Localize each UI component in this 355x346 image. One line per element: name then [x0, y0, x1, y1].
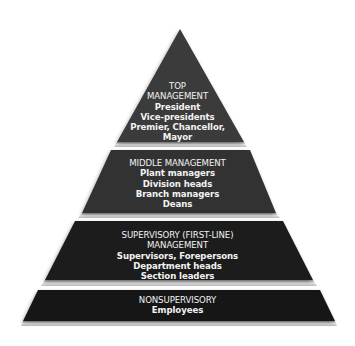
layer-heading: MANAGEMENT [0, 91, 355, 101]
layer-item: Vice-presidents [0, 112, 355, 122]
layer-item: Division heads [0, 179, 355, 189]
layer-heading: TOP [0, 81, 355, 91]
layer-item: Supervisors, Forepersons [0, 251, 355, 261]
supervisory-management-text: SUPERVISORY (FIRST-LINE) MANAGEMENT Supe… [0, 230, 355, 281]
top-management-text: TOP MANAGEMENT President Vice-presidents… [0, 81, 355, 143]
layer-heading: MIDDLE MANAGEMENT [0, 158, 355, 168]
middle-management-text: MIDDLE MANAGEMENT Plant managers Divisio… [0, 158, 355, 209]
layer-item: Department heads [0, 261, 355, 271]
nonsupervisory-layer-bevel [21, 321, 337, 326]
layer-item: Deans [0, 199, 355, 209]
layer-item: President [0, 102, 355, 112]
middle-layer-bevel [78, 213, 280, 218]
layer-item: Section leaders [0, 271, 355, 281]
layer-item: Branch managers [0, 189, 355, 199]
layer-heading: SUPERVISORY (FIRST-LINE) [0, 230, 355, 240]
layer-item: Mayor [0, 132, 355, 142]
layer-heading: MANAGEMENT [0, 240, 355, 250]
layer-item: Employees [0, 305, 355, 315]
layer-item: Premier, Chancellor, [0, 122, 355, 132]
nonsupervisory-text: NONSUPERVISORY Employees [0, 295, 355, 316]
layer-item: Plant managers [0, 168, 355, 178]
layer-heading: NONSUPERVISORY [0, 295, 355, 305]
